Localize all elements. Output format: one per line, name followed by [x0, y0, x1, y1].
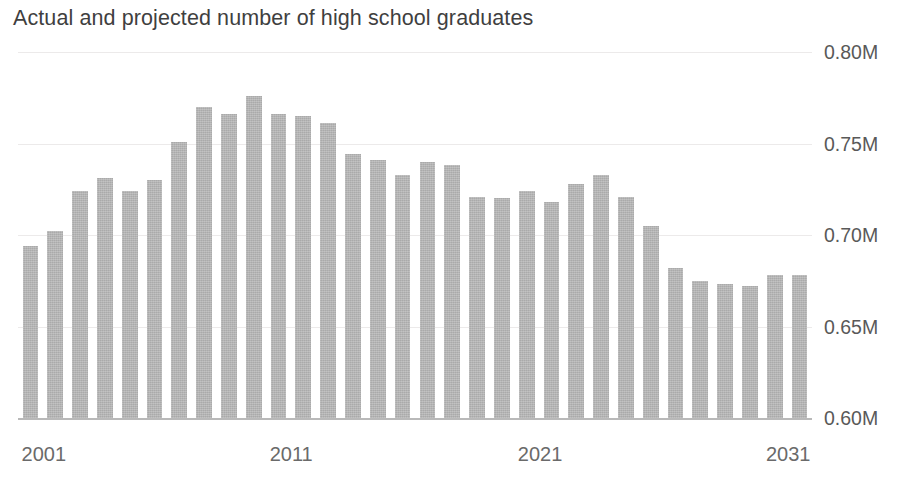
plot-area [18, 52, 812, 418]
bar [792, 275, 808, 418]
y-tick-label: 0.60M [824, 407, 878, 430]
bar [692, 281, 708, 418]
x-tick-label: 2021 [518, 443, 563, 466]
bar [122, 191, 138, 418]
bar [444, 165, 460, 418]
x-tick-label: 2031 [766, 443, 811, 466]
bar [72, 191, 88, 418]
bar [717, 284, 733, 418]
bar [171, 142, 187, 418]
bar [47, 231, 63, 418]
x-axis-line [18, 418, 812, 420]
x-tick-label: 2011 [270, 443, 313, 466]
bar [643, 226, 659, 418]
bar [420, 162, 436, 418]
bar [23, 246, 39, 418]
chart-title: Actual and projected number of high scho… [13, 6, 533, 31]
bar [221, 114, 237, 418]
bar [618, 197, 634, 418]
y-tick-label: 0.70M [824, 224, 878, 247]
bar [320, 123, 336, 418]
bar [767, 275, 783, 418]
x-tick-label: 2001 [22, 443, 67, 466]
bar [593, 175, 609, 418]
bar [271, 114, 287, 418]
y-tick-label: 0.80M [824, 41, 878, 64]
y-tick-label: 0.65M [824, 315, 878, 338]
bar [345, 154, 361, 418]
bar [469, 197, 485, 418]
bar [494, 198, 510, 418]
bar [147, 180, 163, 418]
bar [519, 191, 535, 418]
bar [246, 96, 262, 418]
bar [742, 286, 758, 418]
bar-series [18, 52, 812, 418]
bar [544, 202, 560, 418]
bar [370, 160, 386, 418]
bar [97, 178, 113, 418]
bar [668, 268, 684, 418]
chart-container: Actual and projected number of high scho… [0, 0, 899, 484]
y-tick-label: 0.75M [824, 132, 878, 155]
bar [568, 184, 584, 418]
bar [395, 175, 411, 418]
bar [295, 116, 311, 418]
bar [196, 107, 212, 418]
